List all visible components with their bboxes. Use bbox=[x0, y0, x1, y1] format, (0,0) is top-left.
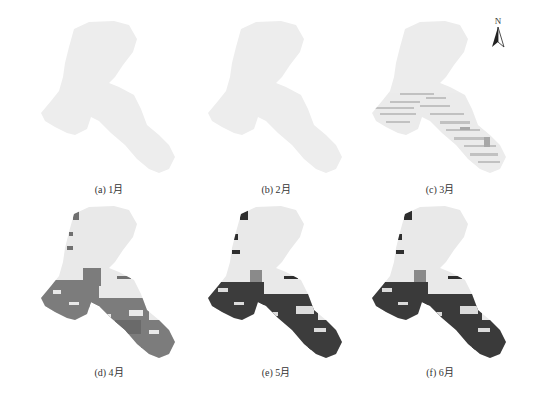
region-map-e bbox=[191, 202, 361, 362]
region-map-f bbox=[355, 202, 525, 362]
caption-f: (f) 6月 bbox=[355, 364, 525, 379]
caption-d: (d) 4月 bbox=[24, 364, 194, 379]
caption-a: (a) 1月 bbox=[24, 181, 194, 196]
north-label: N bbox=[486, 16, 510, 26]
map-panel-b bbox=[191, 17, 361, 192]
map-panel-e bbox=[191, 202, 361, 377]
region-map-d bbox=[24, 202, 194, 362]
region-map-a bbox=[24, 17, 194, 177]
north-arrow-icon bbox=[491, 27, 505, 49]
caption-b: (b) 2月 bbox=[191, 181, 361, 196]
region-map-b bbox=[191, 17, 361, 177]
caption-c: (c) 3月 bbox=[355, 181, 525, 196]
map-panel-a bbox=[24, 17, 194, 192]
caption-e: (e) 5月 bbox=[191, 364, 361, 379]
north-arrow: N bbox=[486, 16, 510, 56]
map-panel-d bbox=[24, 202, 194, 377]
map-panel-f bbox=[355, 202, 525, 377]
